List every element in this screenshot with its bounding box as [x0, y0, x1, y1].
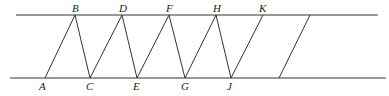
segment-FG [169, 15, 185, 78]
label-G: G [181, 80, 189, 92]
label-F: F [165, 2, 173, 14]
segment-CD [90, 15, 122, 78]
label-D: D [118, 2, 127, 14]
parallelogram-zigzag-diagram: B D F H K A C E G J [0, 0, 389, 96]
segment-EF [137, 15, 169, 78]
segment-GH [185, 15, 216, 78]
segment-DE [122, 15, 137, 78]
label-J: J [227, 80, 233, 92]
segment-BC [75, 15, 90, 78]
label-K: K [258, 2, 267, 14]
zigzag-segments [45, 15, 263, 78]
segment-AB [45, 15, 75, 78]
segment-HJ [216, 15, 231, 78]
label-A: A [38, 80, 46, 92]
label-E: E [132, 80, 140, 92]
segment-JK [231, 15, 263, 78]
label-H: H [212, 2, 222, 14]
extra-transversal-line [279, 15, 310, 78]
label-C: C [86, 80, 94, 92]
label-B: B [72, 2, 79, 14]
